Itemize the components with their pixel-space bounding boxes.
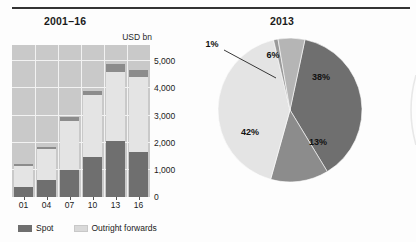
x-axis-tick-01: 01	[19, 200, 28, 210]
bar-segment-13-outright-forwards	[106, 72, 125, 141]
y-axis-tick-2000: 2,000	[154, 138, 175, 148]
bar-segment-10-other	[83, 91, 102, 95]
legend-swatch-outright-forwards	[74, 225, 88, 232]
bar-segment-01-outright-forwards	[14, 166, 33, 186]
legend-item-fx-swaps[interactable]: FX swaps	[406, 223, 416, 233]
bar-segment-01-other	[14, 164, 33, 167]
bar-10[interactable]	[83, 91, 102, 197]
pie-label-6pct: 6%	[266, 50, 279, 60]
x-axis-tickmark-10	[93, 197, 94, 200]
y-axis-tick-5000: 5,000	[154, 56, 175, 66]
bar-segment-07-other	[60, 117, 79, 121]
bar-07[interactable]	[60, 117, 79, 197]
bar-chart-title: 2001–16	[44, 15, 86, 27]
x-axis-tick-07: 07	[65, 200, 74, 210]
bar-04[interactable]	[37, 147, 56, 198]
pie-label-13pct: 13%	[309, 137, 327, 147]
y-axis-tick-0: 0	[154, 192, 159, 202]
legend-swatch-fx-swaps	[406, 225, 416, 232]
pie-chart-panel: 2013 1% 6% 38% 13% 42% FX swaps Currency…	[200, 0, 416, 242]
bar-segment-16-spot	[129, 152, 148, 197]
legend-item-spot[interactable]: Spot	[18, 223, 54, 233]
pie-chart-legend: FX swaps Currency swaps	[406, 223, 416, 233]
bar-01[interactable]	[14, 164, 33, 197]
bar-segment-01-spot	[14, 187, 33, 197]
bar-segment-10-outright-forwards	[83, 95, 102, 156]
figure-container: 2001–16 USD bn 0 1,000 2,000 3,000 4,000…	[0, 0, 416, 242]
x-axis-tick-13: 13	[111, 200, 120, 210]
pie-label-42pct: 42%	[241, 127, 259, 137]
pie-chart-svg: 1% 6% 38% 13% 42%	[200, 0, 416, 210]
bar-segment-13-other	[106, 64, 125, 72]
x-axis-tickmark-07	[70, 197, 71, 200]
x-axis-tickmark-04	[47, 197, 48, 200]
y-axis-tick-4000: 4,000	[154, 83, 175, 93]
y-axis-tick-1000: 1,000	[154, 165, 175, 175]
bar-segment-04-spot	[37, 180, 56, 197]
bar-segment-13-spot	[106, 141, 125, 197]
pie-label-38pct: 38%	[312, 72, 330, 82]
bar-16[interactable]	[129, 70, 148, 197]
x-axis-tickmark-01	[24, 197, 25, 200]
legend-label-outright-forwards: Outright forwards	[92, 223, 157, 233]
bar-chart-unit-label: USD bn	[122, 32, 152, 42]
x-axis-tick-04: 04	[42, 200, 51, 210]
bar-segment-04-other	[37, 147, 56, 150]
bar-chart-panel: 2001–16 USD bn 0 1,000 2,000 3,000 4,000…	[0, 0, 200, 242]
gridline-x-4	[104, 45, 105, 197]
bar-segment-07-spot	[60, 170, 79, 197]
gridline-x-3	[81, 45, 82, 197]
bar-13[interactable]	[106, 64, 125, 197]
pie-label-1pct: 1%	[205, 39, 218, 49]
bar-segment-04-outright-forwards	[37, 149, 56, 179]
bar-segment-16-other	[129, 70, 148, 77]
x-axis-tick-10: 10	[88, 200, 97, 210]
bar-segment-16-outright-forwards	[129, 77, 148, 152]
bar-chart-legend: Spot Outright forwards	[18, 223, 157, 233]
x-axis-tickmark-16	[139, 197, 140, 200]
pie-slices-group	[218, 38, 362, 182]
gridline-x-5	[127, 45, 128, 197]
gridline-x-1	[35, 45, 36, 197]
gridline-x-2	[58, 45, 59, 197]
legend-swatch-spot	[18, 225, 32, 232]
x-axis-tick-16: 16	[134, 200, 143, 210]
adjacent-panel-edge	[408, 75, 416, 145]
bar-segment-10-spot	[83, 157, 102, 197]
y-axis-tick-3000: 3,000	[154, 111, 175, 121]
x-axis-tickmark-13	[116, 197, 117, 200]
legend-label-spot: Spot	[36, 223, 54, 233]
legend-item-outright-forwards[interactable]: Outright forwards	[74, 223, 157, 233]
bar-segment-07-outright-forwards	[60, 121, 79, 170]
bar-chart-plot-area	[12, 45, 150, 197]
